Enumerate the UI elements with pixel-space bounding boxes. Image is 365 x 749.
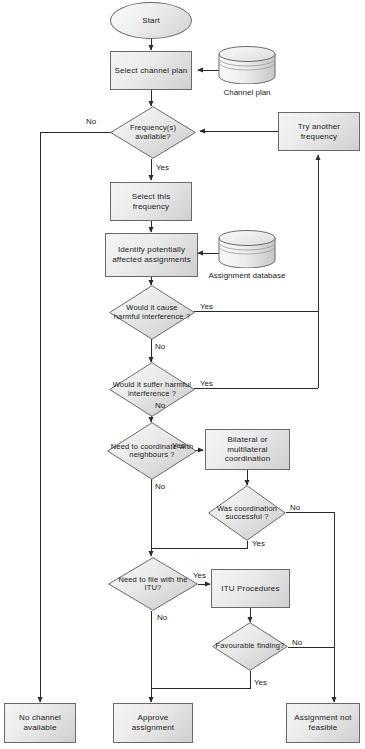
node-assignment-not-feasible-label: Assignment not feasible xyxy=(287,713,359,733)
node-bilateral-coordination[interactable]: Bilateral or multilateral coordination xyxy=(205,429,290,470)
node-suffer-harmful-interference-label: Would it suffer harmful interference ? xyxy=(112,381,191,398)
node-no-channel-available[interactable]: No channel available xyxy=(4,703,76,743)
node-assignment-not-feasible[interactable]: Assignment not feasible xyxy=(286,703,360,743)
node-select-this-frequency[interactable]: Select this frequency xyxy=(110,182,192,221)
node-no-channel-available-label: No channel available xyxy=(5,713,75,733)
node-identify-affected-assignments-label: Identify potentially affected assignment… xyxy=(106,245,197,265)
edge-label-suffer-no: No xyxy=(155,402,165,410)
edge-label-favourable-yes: Yes xyxy=(254,679,267,687)
node-bilateral-coordination-label: Bilateral or multilateral coordination xyxy=(206,435,289,464)
edge-label-coordination-yes: Yes xyxy=(252,540,265,548)
node-need-file-itu-decision[interactable]: Need to file with the ITU? xyxy=(108,557,198,611)
node-select-channel-plan[interactable]: Select channel plan xyxy=(110,51,192,90)
edge-label-coordinate-no: No xyxy=(155,483,165,491)
edge-label-file-itu-no: No xyxy=(157,614,167,622)
node-try-another-frequency-label: Try another frequency xyxy=(279,122,359,142)
node-approve-assignment[interactable]: Approve assignment xyxy=(113,703,193,743)
node-itu-procedures-label: ITU Procedures xyxy=(219,584,281,594)
edge-label-frequency-no: No xyxy=(86,118,96,126)
node-channel-plan-database[interactable] xyxy=(218,46,276,84)
node-approve-assignment-label: Approve assignment xyxy=(114,713,192,733)
edge-label-file-itu-yes: Yes xyxy=(193,572,206,580)
edge-label-cause-yes: Yes xyxy=(200,303,213,311)
flowchart-canvas: Start Select channel plan Channel plan F… xyxy=(0,0,365,749)
node-try-another-frequency[interactable]: Try another frequency xyxy=(278,112,360,151)
node-select-channel-plan-label: Select channel plan xyxy=(113,66,190,76)
node-favourable-finding-label: Favourable finding? xyxy=(215,642,285,650)
node-start[interactable]: Start xyxy=(110,2,192,39)
label-channel-plan-database: Channel plan xyxy=(205,88,289,98)
node-suffer-harmful-interference-decision[interactable]: Would it suffer harmful interference ? xyxy=(109,362,195,417)
node-frequency-available-decision[interactable]: Frequency(s) available? xyxy=(110,106,196,159)
edge-label-coordination-no: No xyxy=(290,504,300,512)
node-start-label: Start xyxy=(142,16,160,26)
edge-label-frequency-yes: Yes xyxy=(156,164,169,172)
node-coordination-successful-decision[interactable]: Was coordination successful ? xyxy=(208,485,286,541)
edge-label-cause-no: No xyxy=(155,343,165,351)
database-cylinder-icon xyxy=(218,46,276,84)
edge-label-favourable-no: No xyxy=(292,639,302,647)
database-cylinder-icon xyxy=(218,230,276,268)
node-assignment-database[interactable] xyxy=(218,230,276,268)
node-itu-procedures[interactable]: ITU Procedures xyxy=(211,569,290,608)
node-favourable-finding-decision[interactable]: Favourable finding? xyxy=(212,622,288,671)
node-need-file-itu-label: Need to file with the ITU? xyxy=(112,576,195,593)
node-need-coordinate-decision[interactable]: Need to coordinate with neighbours ? xyxy=(107,422,197,480)
node-cause-harmful-interference-decision[interactable]: Would it cause harmful interference ? xyxy=(109,285,195,340)
node-need-coordinate-label: Need to coordinate with neighbours ? xyxy=(111,443,194,460)
edge-label-suffer-yes: Yes xyxy=(200,380,213,388)
node-identify-affected-assignments[interactable]: Identify potentially affected assignment… xyxy=(105,233,198,277)
node-select-this-frequency-label: Select this frequency xyxy=(111,192,191,212)
node-cause-harmful-interference-label: Would it cause harmful interference ? xyxy=(112,304,191,321)
node-frequency-available-label: Frequency(s) available? xyxy=(113,124,192,141)
label-assignment-database: Assignment database xyxy=(205,271,289,281)
node-coordination-successful-label: Was coordination successful ? xyxy=(211,505,283,522)
